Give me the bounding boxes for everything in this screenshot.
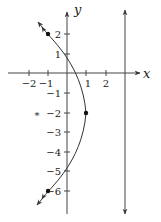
point-neg1-neg6 [46,189,50,193]
parabola-arrow-bottom [37,199,42,205]
y-tick-label: −2 [46,108,61,119]
point-neg1-2 [46,32,50,36]
y-tick-label: 2 [55,29,61,40]
y-tick-label: −4 [46,147,61,158]
y-axis-label: y [73,2,82,17]
x-axis-label: x [143,66,151,81]
x-tick-label: 2 [103,78,109,89]
point-vertex [84,111,88,115]
y-tick-label: −1 [46,88,61,99]
x-tick-label: 1 [85,78,91,89]
y-tick-label: 1 [55,49,61,60]
star-annotation: * [35,110,40,121]
parabola-arrow-top [38,22,42,27]
y-tick-label: −5 [46,166,61,177]
x-tick-label: −2 [22,78,37,89]
y-tick-label: −3 [46,127,61,138]
graph: −2 −1 1 2 2 1 −1 −2 −3 −4 −5 −6 * x y [0,0,161,222]
